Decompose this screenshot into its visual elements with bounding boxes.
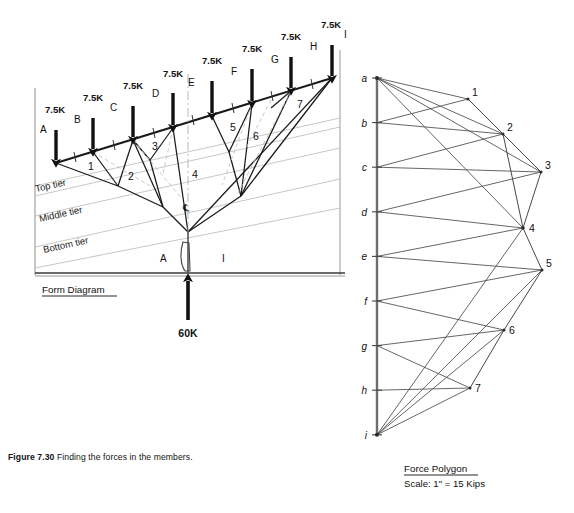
- tier-labels: Top tier Middle tier Bottom tier: [34, 176, 89, 254]
- polygon-chain: [468, 99, 542, 388]
- load-label-6: 7.5K: [242, 43, 262, 54]
- load-label-8: 7.5K: [321, 19, 341, 30]
- figure-7-30: 7.5K 7.5K 7.5K 7.5K 7.5K 7.5K 7.5K 7.5K …: [0, 0, 574, 513]
- force-polygon: a b c d e f g h i 1 2 3 4 5 6 7 Force Po…: [361, 73, 552, 489]
- tier-label-top: Top tier: [34, 176, 67, 193]
- bow-label-H: H: [310, 41, 317, 52]
- bow-label-G: G: [271, 54, 279, 65]
- bow-label-E: E: [188, 77, 195, 88]
- load-line-label-f: f: [364, 296, 368, 307]
- force-rays: [377, 78, 542, 435]
- bow-label-B: B: [74, 114, 81, 125]
- polygon-node-label-6: 6: [509, 324, 515, 336]
- load-line-label-i: i: [365, 430, 368, 441]
- centerline-symbol: ℄: [182, 202, 190, 213]
- bow-label-D: D: [152, 88, 159, 99]
- interior-label-4: 4: [192, 168, 198, 180]
- load-label-3: 7.5K: [123, 80, 143, 91]
- polygon-node-label-1: 1: [472, 86, 478, 98]
- figure-caption-label: Figure 7.30: [8, 452, 54, 462]
- polygon-node-label-3: 3: [545, 159, 551, 171]
- load-line-label-d: d: [361, 207, 367, 218]
- construction-rays: [93, 91, 291, 200]
- polygon-node-label-7: 7: [475, 382, 481, 394]
- base-label-I: I: [222, 253, 225, 264]
- form-diagram-title: Form Diagram: [42, 284, 105, 295]
- load-line-label-e: e: [361, 251, 367, 262]
- figure-caption: Figure 7.30 Finding the forces in the me…: [8, 452, 328, 462]
- load-line-label-a: a: [361, 73, 367, 84]
- bow-label-C: C: [110, 102, 117, 113]
- polygon-node-label-4: 4: [529, 222, 535, 234]
- force-polygon-title: Force Polygon: [404, 463, 467, 474]
- interior-label-7: 7: [297, 98, 303, 110]
- polygon-node-label-5: 5: [546, 257, 552, 269]
- tier-label-bottom: Bottom tier: [42, 234, 89, 255]
- load-label-1: 7.5K: [45, 104, 65, 115]
- load-label-7: 7.5K: [281, 31, 301, 42]
- load-label-5: 7.5K: [202, 55, 222, 66]
- load-line-label-h: h: [361, 385, 367, 396]
- load-line-labels: a b c d e f g h i: [361, 73, 368, 441]
- interior-label-1: 1: [88, 160, 94, 172]
- interior-label-5: 5: [230, 121, 236, 133]
- load-line-label-c: c: [362, 162, 367, 173]
- polygon-node-label-2: 2: [507, 121, 513, 133]
- interior-label-6: 6: [253, 130, 259, 142]
- reaction-label: 60K: [178, 327, 198, 339]
- form-diagram: 7.5K 7.5K 7.5K 7.5K 7.5K 7.5K 7.5K 7.5K …: [34, 19, 347, 339]
- load-line-label-g: g: [361, 341, 367, 352]
- load-line-label-b: b: [361, 118, 367, 129]
- load-label-2: 7.5K: [83, 92, 103, 103]
- interior-label-3: 3: [152, 140, 158, 152]
- interior-space-labels: 1 2 3 4 5 6 7: [88, 98, 303, 182]
- figure-caption-text: Finding the forces in the members.: [57, 452, 193, 462]
- bow-label-I: I: [344, 29, 347, 40]
- interior-label-2: 2: [128, 170, 134, 182]
- bow-label-F: F: [231, 66, 237, 77]
- force-polygon-scale: Scale: 1" = 15 Kips: [404, 478, 485, 489]
- bow-label-A: A: [40, 124, 47, 135]
- base-label-A: A: [160, 253, 167, 264]
- load-label-4: 7.5K: [163, 68, 183, 79]
- tier-label-middle: Middle tier: [38, 204, 83, 224]
